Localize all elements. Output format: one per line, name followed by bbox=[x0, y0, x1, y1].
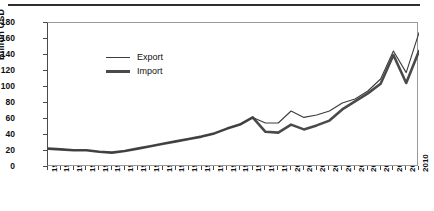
y-tick-label-80: 80 bbox=[0, 98, 15, 107]
y-tick-label-60: 60 bbox=[0, 114, 15, 123]
y-tick-label-140: 140 bbox=[0, 50, 15, 59]
y-tick-label-180: 180 bbox=[0, 18, 15, 27]
y-tick-label-0: 0 bbox=[0, 162, 15, 171]
series-paths bbox=[48, 23, 419, 167]
top-divider-rule bbox=[8, 4, 420, 6]
y-tick-label-100: 100 bbox=[0, 82, 15, 91]
export-line-swatch-icon bbox=[106, 57, 130, 58]
export-line bbox=[48, 33, 419, 153]
y-tick-label-20: 20 bbox=[0, 146, 15, 155]
plot-area: Export Import bbox=[47, 22, 418, 166]
legend-label-export: Export bbox=[137, 52, 163, 62]
legend-item-import: Import bbox=[106, 64, 163, 78]
import-line-swatch-icon bbox=[106, 70, 130, 73]
chart-figure: Billion USD 180160140120100806040200 198… bbox=[0, 0, 434, 211]
y-tick-label-160: 160 bbox=[0, 34, 15, 43]
y-tick-label-40: 40 bbox=[0, 130, 15, 139]
chart-legend: Export Import bbox=[106, 50, 163, 78]
import-line bbox=[48, 51, 419, 153]
y-tick-label-120: 120 bbox=[0, 66, 15, 75]
x-tick-label-2010: 2010 bbox=[422, 154, 430, 172]
legend-label-import: Import bbox=[137, 66, 163, 76]
legend-item-export: Export bbox=[106, 50, 163, 64]
